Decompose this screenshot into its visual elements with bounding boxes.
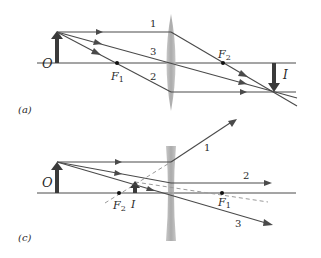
ray-2-arrow (114, 170, 122, 176)
ray-3-refracted-arrow (263, 219, 273, 226)
ray-1-label: 1 (204, 142, 210, 153)
f1-label: F1 (110, 70, 124, 84)
image-label: I (130, 198, 136, 211)
ray-3-label: 3 (150, 46, 156, 57)
ray-1-arrow (115, 159, 122, 165)
ray-1-arrow (96, 29, 103, 35)
caption-a: (a) (18, 104, 32, 115)
f2-label: F2 (112, 199, 126, 213)
f1-label: F1 (217, 196, 231, 210)
ray-2-arrow (91, 48, 101, 55)
ray-2-label: 2 (243, 170, 249, 181)
object-label: O (42, 175, 53, 190)
ray-3-arrow (146, 186, 155, 191)
ray-2-virtual-extension (135, 182, 268, 202)
ray-3-label: 3 (235, 218, 241, 229)
figure-c-diverging-lens: O I F2 F1 1 2 3 (c) (18, 119, 296, 243)
object-arrow (51, 162, 63, 193)
ray-3 (57, 32, 297, 98)
focal-point-f1 (115, 61, 119, 65)
focal-point-f2 (117, 191, 121, 195)
ray-1-refracted (171, 123, 230, 162)
image-arrow (268, 63, 280, 92)
focal-point-f2 (221, 61, 225, 65)
caption-c: (c) (18, 232, 32, 243)
ray-2-refracted-arrow (240, 89, 247, 95)
figure-a-converging-lens: O I F1 F2 1 3 2 (a) (18, 14, 297, 115)
ray-diagram: O I F1 F2 1 3 2 (a) (0, 0, 321, 258)
ray-3-refracted-arrow (238, 79, 247, 85)
object-arrow (51, 31, 63, 63)
ray-2-incident (57, 32, 171, 92)
ray-2-refracted-arrow (264, 180, 272, 186)
ray-1-label: 1 (150, 18, 156, 29)
ray-1-refracted-arrow (238, 70, 248, 77)
image-label: I (282, 68, 288, 82)
ray-3-arrow (93, 39, 102, 45)
ray-2-label: 2 (150, 71, 156, 82)
f2-label: F2 (217, 48, 231, 62)
focal-point-f1 (220, 191, 224, 195)
ray-1-refracted-arrow (228, 119, 237, 127)
object-label: O (42, 56, 53, 71)
